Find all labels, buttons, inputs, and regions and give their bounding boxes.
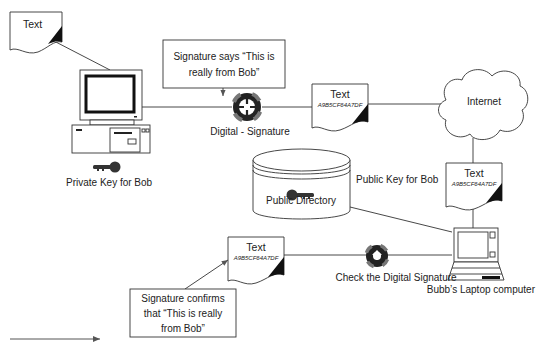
diagram-canvas: Text Private Key for Bob Signature says … xyxy=(0,0,541,344)
laptop-label: Bubb’s Laptop computer xyxy=(427,284,536,295)
public-key-label: Public Key for Bob xyxy=(356,174,439,185)
confirm-callout-line3: from Bob” xyxy=(161,323,205,334)
document-signed: Text A9B5CF64A7DF xyxy=(312,84,368,131)
signature-callout: Signature says “This is really from Bob” xyxy=(163,40,285,88)
public-directory-database: Public Directory xyxy=(253,149,350,219)
check-signature-icon xyxy=(363,242,391,270)
confirm-callout-line2: that “This is really xyxy=(144,308,222,319)
edge-callout-to-doc xyxy=(185,260,228,289)
internet-label: Internet xyxy=(467,96,501,107)
signature-callout-line1: Signature says “This is xyxy=(173,51,274,62)
document-received: Text A9B5CF64A7DF xyxy=(446,163,502,210)
digital-signature-label: Digital - Signature xyxy=(210,126,290,137)
document-signed-title: Text xyxy=(330,88,349,100)
document-verified-title: Text xyxy=(246,241,265,253)
document-received-title: Text xyxy=(464,167,483,179)
check-signature-label: Check the Digital Signature xyxy=(335,272,457,283)
document-received-hash: A9B5CF64A7DF xyxy=(451,181,497,187)
edge-directory-to-laptop xyxy=(350,207,452,232)
document-origin: Text xyxy=(10,12,62,53)
desktop-computer-icon xyxy=(72,70,150,153)
private-key-icon xyxy=(93,162,121,173)
digital-signature-icon xyxy=(229,89,265,125)
private-key-label: Private Key for Bob xyxy=(66,177,153,188)
internet-cloud: Internet xyxy=(439,70,528,140)
edge-doc-to-pc xyxy=(52,40,110,70)
public-directory-label: Public Directory xyxy=(266,195,336,206)
document-verified: Text A9B5CF64A7DF xyxy=(228,237,284,284)
document-origin-title: Text xyxy=(23,18,42,30)
document-verified-hash: A9B5CF64A7DF xyxy=(233,255,279,261)
signature-callout-line2: really from Bob” xyxy=(189,67,260,78)
confirm-callout: Signature confirms that “This is really … xyxy=(130,289,236,337)
document-signed-hash: A9B5CF64A7DF xyxy=(317,102,363,108)
confirm-callout-line1: Signature confirms xyxy=(141,293,224,304)
